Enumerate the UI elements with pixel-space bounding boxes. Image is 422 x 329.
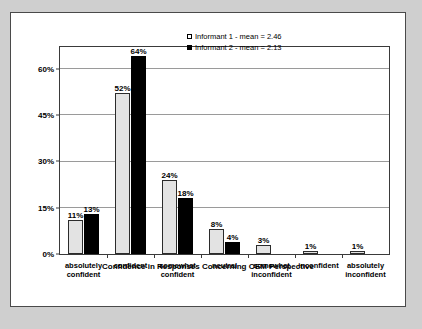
legend-item-informant-2: Informant 2 - mean = 2.13	[187, 42, 315, 53]
bar-value-label: 18%	[177, 189, 193, 198]
x-axis-tick-mark	[342, 254, 343, 258]
bar-value-label: 4%	[227, 233, 239, 242]
y-axis-tick-label: 60%	[38, 64, 54, 73]
legend-label-informant-1: Informant 1 - mean = 2.46	[195, 32, 282, 41]
bar-series-1[interactable]: 8%	[209, 229, 224, 254]
y-axis-tick-label: 45%	[38, 110, 54, 119]
x-axis-tick-mark	[154, 254, 155, 258]
bar-value-label: 24%	[161, 171, 177, 180]
bar-group: 24%18%somewhat confident	[154, 47, 201, 254]
bar-group: 1%absolutely inconfident	[342, 47, 389, 254]
bar-series-1[interactable]: 1%	[350, 251, 365, 254]
bar-series-1[interactable]: 1%	[303, 251, 318, 254]
legend-swatch-open-square-icon	[187, 34, 192, 39]
bar-group: 11%13%absolutely confident	[60, 47, 107, 254]
bar-series-1[interactable]: 52%	[115, 93, 130, 254]
bar-value-label: 52%	[114, 84, 130, 93]
bar-series-2[interactable]: 13%	[84, 214, 99, 254]
x-axis-tick-mark	[295, 254, 296, 258]
y-axis-tick-label: 0%	[42, 250, 54, 259]
bar-series-1[interactable]: 11%	[68, 220, 83, 254]
bar-value-label: 8%	[211, 220, 223, 229]
bar-group: 52%64%confident	[107, 47, 154, 254]
bar-value-label: 3%	[258, 236, 270, 245]
y-axis-tick-label: 30%	[38, 157, 54, 166]
bar-series-2[interactable]: 64%	[131, 56, 146, 254]
x-axis-tick-mark	[107, 254, 108, 258]
figure-frame: 0%15%30%45%60%11%13%absolutely confident…	[10, 12, 406, 307]
y-axis-tick-label: 15%	[38, 203, 54, 212]
bar-value-label: 11%	[68, 211, 84, 220]
legend-item-informant-1: Informant 1 - mean = 2.46	[187, 31, 315, 42]
bar-value-label: 1%	[352, 242, 364, 251]
bar-series-1[interactable]: 24%	[162, 180, 177, 254]
bar-group: 3%somewhat inconfident	[248, 47, 295, 254]
x-axis-tick-mark	[201, 254, 202, 258]
bar-value-label: 13%	[83, 205, 99, 214]
x-axis-title: Confidence in Responses Concerning OEM P…	[11, 262, 405, 271]
bar-series-2[interactable]: 4%	[225, 242, 240, 254]
bar-value-label: 64%	[130, 47, 146, 56]
bar-value-label: 1%	[305, 242, 317, 251]
legend-swatch-filled-square-icon	[187, 45, 192, 50]
chart-legend: Informant 1 - mean = 2.46 Informant 2 - …	[187, 31, 315, 53]
bar-series-2[interactable]: 18%	[178, 198, 193, 254]
bar-group: 1%inconfident	[295, 47, 342, 254]
bar-series-1[interactable]: 3%	[256, 245, 271, 254]
legend-label-informant-2: Informant 2 - mean = 2.13	[195, 43, 282, 52]
bar-group: 8%4%neutral	[201, 47, 248, 254]
figure-page: 0%15%30%45%60%11%13%absolutely confident…	[0, 0, 422, 329]
x-axis-tick-mark	[248, 254, 249, 258]
chart-plot-area: 0%15%30%45%60%11%13%absolutely confident…	[59, 46, 390, 255]
